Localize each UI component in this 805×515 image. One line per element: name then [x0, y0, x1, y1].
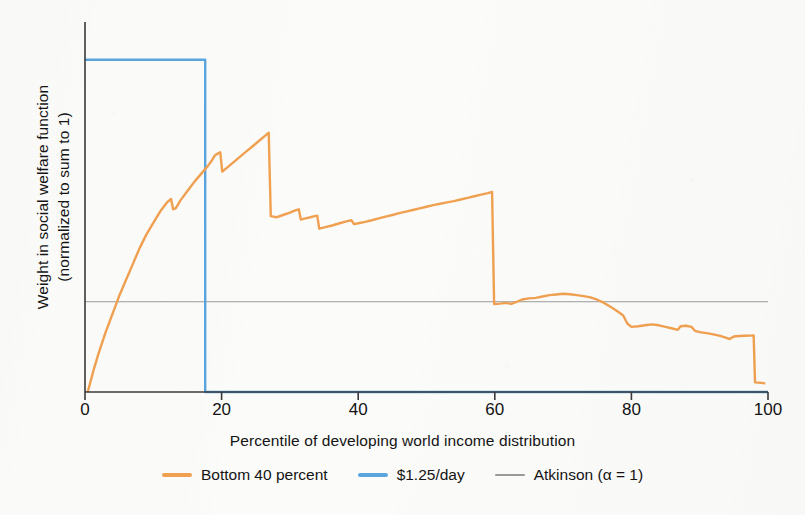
- y-axis-title-line1: Weight in social welfare function: [32, 32, 53, 362]
- series-line-0: [88, 133, 766, 392]
- series-line-1: [85, 60, 768, 392]
- chart-figure: Weight in social welfare function (norma…: [0, 0, 805, 515]
- legend-entry-0[interactable]: Bottom 40 percent: [162, 466, 328, 484]
- legend-label-0: Bottom 40 percent: [201, 466, 328, 484]
- chart-legend: Bottom 40 percent$1.25/dayAtkinson (α = …: [0, 466, 805, 484]
- x-tick-label-0: 0: [55, 400, 115, 420]
- x-axis-title: Percentile of developing world income di…: [0, 432, 805, 450]
- legend-swatch-icon-2: [495, 474, 525, 476]
- legend-label-2: Atkinson (α = 1): [534, 466, 643, 484]
- y-axis-title: Weight in social welfare function (norma…: [32, 32, 74, 362]
- legend-label-1: $1.25/day: [397, 466, 465, 484]
- x-tick-label-80: 80: [601, 400, 661, 420]
- legend-entry-2[interactable]: Atkinson (α = 1): [495, 466, 643, 484]
- legend-swatch-icon-1: [358, 473, 388, 477]
- x-tick-label-100: 100: [738, 400, 798, 420]
- legend-swatch-icon-0: [162, 473, 192, 477]
- y-axis-title-line2: (normalized to sum to 1): [53, 32, 74, 362]
- x-tick-label-60: 60: [465, 400, 525, 420]
- series-layer: [85, 60, 768, 392]
- x-tick-label-20: 20: [192, 400, 252, 420]
- x-tick-label-40: 40: [328, 400, 388, 420]
- legend-entry-1[interactable]: $1.25/day: [358, 466, 465, 484]
- axis-layer: [85, 22, 768, 400]
